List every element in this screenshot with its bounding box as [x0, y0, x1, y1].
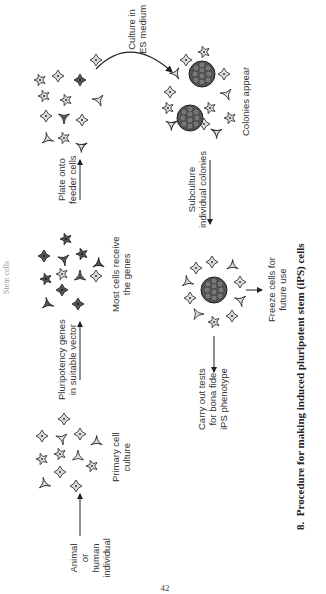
feeder-cells	[34, 54, 103, 153]
transfected-cells	[38, 233, 104, 311]
page-number: 42	[161, 583, 170, 593]
label-tests: Carry out testsfor bona fideiPS phenotyp…	[196, 368, 229, 430]
label-culture-arrow: Culture inES medium	[126, 5, 148, 54]
label-source: Animal or human individual	[68, 538, 112, 578]
label-primary: Primary cellculture	[110, 432, 132, 482]
ips-colony-cells	[182, 256, 246, 328]
colony-cells	[162, 46, 235, 138]
primary-cells	[36, 413, 102, 492]
figure-caption: 8. Procedure for making induced pluripot…	[294, 243, 306, 530]
label-subculture-arrow: Subcultureindividual colonies	[186, 151, 208, 228]
label-colonies: Colonies appear	[240, 67, 251, 136]
label-plate-arrow: Plate ontofeeder cells	[56, 155, 78, 204]
label-most-cells: Most cells receivethe genes	[110, 237, 132, 313]
label-freeze: Freeze cells forfuture use	[266, 257, 288, 322]
arrow-culture	[96, 52, 172, 72]
caption-text: Procedure for making induced pluripotent…	[294, 243, 306, 516]
label-transfect-arrow: Pluripotency genesin suitable vector	[56, 319, 78, 400]
rotated-page: Stem cells	[0, 0, 326, 594]
caption-number: 8.	[294, 522, 306, 530]
